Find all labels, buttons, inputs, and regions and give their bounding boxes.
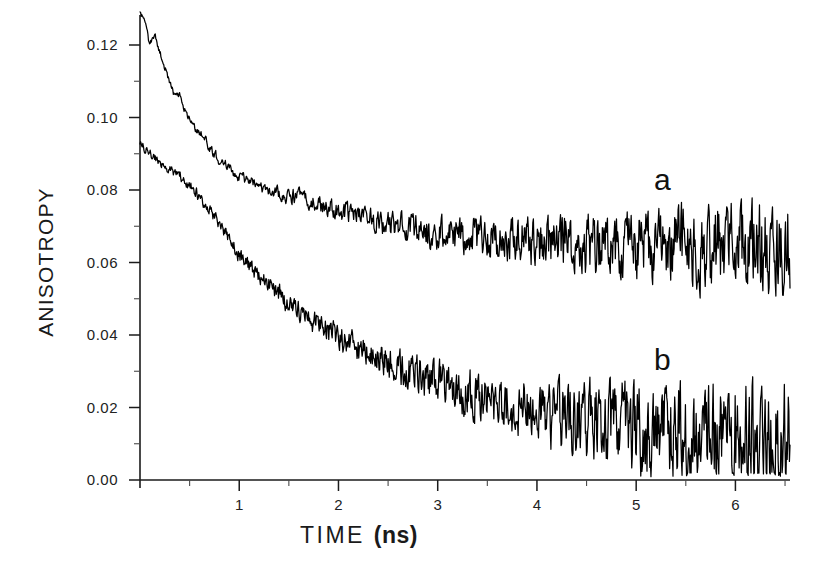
series-trace-b [140,142,790,477]
anisotropy-figure: ANISOTROPY TIME (ns) a b 0.000.020.040.0… [0,0,828,586]
plot-canvas [0,0,828,586]
